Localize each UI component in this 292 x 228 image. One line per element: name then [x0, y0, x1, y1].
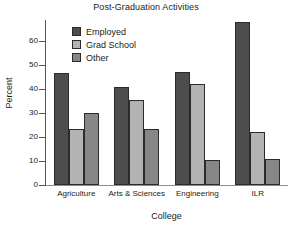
x-axis-line [45, 185, 288, 186]
y-axis-tick [39, 113, 46, 114]
bar [69, 129, 84, 185]
chart-legend: EmployedGrad SchoolOther [72, 25, 136, 64]
y-axis-tick [39, 161, 46, 162]
legend-swatch-icon [72, 53, 81, 62]
bar [205, 160, 220, 185]
legend-item: Other [72, 51, 136, 64]
x-axis-title: College [45, 211, 288, 221]
legend-item-label: Grad School [86, 40, 136, 50]
y-axis-tick [39, 41, 46, 42]
y-axis-tick-label: 10 [4, 156, 38, 165]
bar [54, 73, 69, 185]
bar [250, 132, 265, 185]
bar [84, 113, 99, 185]
y-axis-tick-label: 60 [4, 36, 38, 45]
y-axis-tick-label: 0 [4, 180, 38, 189]
bar [144, 129, 159, 185]
y-axis-tick [39, 137, 46, 138]
bar [114, 87, 129, 185]
bar [175, 72, 190, 185]
legend-item: Grad School [72, 38, 136, 51]
x-axis-category-label: Engineering [167, 189, 228, 198]
chart-title: Post-Graduation Activities [0, 2, 292, 12]
bar [235, 22, 250, 185]
bar-chart: Post-Graduation Activities 0102030405060… [0, 0, 292, 228]
legend-swatch-icon [72, 27, 81, 36]
y-axis-tick [39, 65, 46, 66]
legend-swatch-icon [72, 40, 81, 49]
y-axis-title: Percent [4, 68, 14, 118]
y-axis-tick [39, 89, 46, 90]
bar [190, 84, 205, 185]
x-axis-category-label: Arts & Sciences [107, 189, 168, 198]
bar [265, 159, 280, 185]
legend-item: Employed [72, 25, 136, 38]
y-axis-tick-label: 20 [4, 132, 38, 141]
x-axis-category-label: ILR [228, 189, 289, 198]
x-axis-category-label: Agriculture [46, 189, 107, 198]
legend-item-label: Employed [86, 27, 126, 37]
bar [129, 100, 144, 185]
y-axis-tick [39, 185, 46, 186]
legend-item-label: Other [86, 53, 109, 63]
